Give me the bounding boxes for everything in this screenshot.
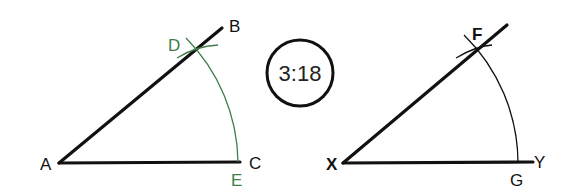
label-b: B bbox=[229, 17, 240, 36]
label-d: D bbox=[168, 36, 180, 55]
arc-de bbox=[186, 38, 238, 162]
left-angle-figure: A B C D E bbox=[40, 17, 261, 190]
label-e: E bbox=[231, 171, 242, 190]
angle-copy-diagram: A B C D E 3:18 X Y F G bbox=[0, 0, 572, 194]
label-y: Y bbox=[534, 153, 545, 172]
right-angle-figure: X Y F G bbox=[326, 25, 545, 190]
label-c: C bbox=[249, 154, 261, 173]
step-badge: 3:18 bbox=[267, 40, 333, 106]
ray-ac bbox=[59, 162, 240, 163]
step-number: 3:18 bbox=[279, 61, 322, 86]
label-x: X bbox=[326, 155, 338, 174]
label-a: A bbox=[40, 155, 52, 174]
ray-xy bbox=[343, 162, 533, 163]
label-f: F bbox=[472, 25, 482, 44]
label-g: G bbox=[510, 171, 523, 190]
ray-xf bbox=[343, 25, 507, 163]
